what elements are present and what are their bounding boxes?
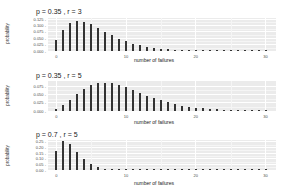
bar bbox=[125, 169, 127, 170]
bar bbox=[111, 169, 113, 170]
gridline-minor bbox=[48, 156, 276, 157]
bar bbox=[174, 169, 176, 170]
bar bbox=[251, 169, 253, 170]
x-tick-label: 30 bbox=[260, 173, 272, 178]
bar bbox=[167, 169, 169, 170]
bar bbox=[83, 159, 85, 170]
gridline-minor bbox=[48, 145, 276, 146]
bar bbox=[188, 169, 190, 170]
y-tick-label: 0.20 - bbox=[20, 145, 46, 150]
gridline-major bbox=[48, 158, 276, 159]
gridline-major bbox=[195, 140, 196, 170]
y-tick-label: 0.25 - bbox=[20, 139, 46, 144]
bar bbox=[97, 167, 99, 170]
bar bbox=[181, 169, 183, 170]
panel-title: p = 0.7 , r = 5 bbox=[36, 131, 78, 138]
gridline-major bbox=[48, 147, 276, 148]
bar bbox=[146, 169, 148, 170]
x-tick-label: 0 bbox=[50, 173, 62, 178]
gridline-major bbox=[126, 140, 127, 170]
x-tick-label: 20 bbox=[190, 173, 202, 178]
gridline-minor bbox=[231, 140, 232, 170]
bar bbox=[76, 152, 78, 170]
bar bbox=[132, 169, 134, 170]
y-tick-label: 0.10 - bbox=[20, 156, 46, 161]
bar bbox=[104, 169, 106, 170]
bar bbox=[223, 169, 225, 170]
gridline-major bbox=[48, 164, 276, 165]
bar bbox=[90, 164, 92, 170]
bar bbox=[265, 169, 267, 170]
bar bbox=[160, 169, 162, 170]
bar bbox=[55, 151, 57, 170]
gridline-major bbox=[48, 153, 276, 154]
x-axis-title: number of failures bbox=[134, 180, 174, 186]
gridline-major bbox=[265, 140, 266, 170]
gridline-major bbox=[48, 170, 276, 171]
chart-panel-3: p = 0.7 , r = 5 probability number of fa… bbox=[0, 0, 288, 192]
bar bbox=[244, 169, 246, 170]
bar bbox=[118, 169, 120, 170]
y-axis-title: probability bbox=[5, 145, 10, 166]
bar bbox=[153, 169, 155, 170]
bar bbox=[237, 169, 239, 170]
gridline-minor bbox=[161, 140, 162, 170]
gridline-major bbox=[48, 141, 276, 142]
bar bbox=[139, 169, 141, 170]
gridline-minor bbox=[48, 167, 276, 168]
bar bbox=[230, 169, 232, 170]
bar bbox=[202, 169, 204, 170]
gridline-minor bbox=[48, 162, 276, 163]
bar bbox=[69, 144, 71, 170]
bar bbox=[258, 169, 260, 170]
bar bbox=[195, 169, 197, 170]
y-tick-label: 0.00 - bbox=[20, 168, 46, 173]
y-tick-label: 0.05 - bbox=[20, 162, 46, 167]
plot-area bbox=[48, 140, 276, 170]
y-tick-label: 0.15 - bbox=[20, 151, 46, 156]
bar bbox=[216, 169, 218, 170]
bar bbox=[209, 169, 211, 170]
gridline-minor bbox=[48, 150, 276, 151]
x-tick-label: 10 bbox=[120, 173, 132, 178]
bar bbox=[62, 141, 64, 170]
